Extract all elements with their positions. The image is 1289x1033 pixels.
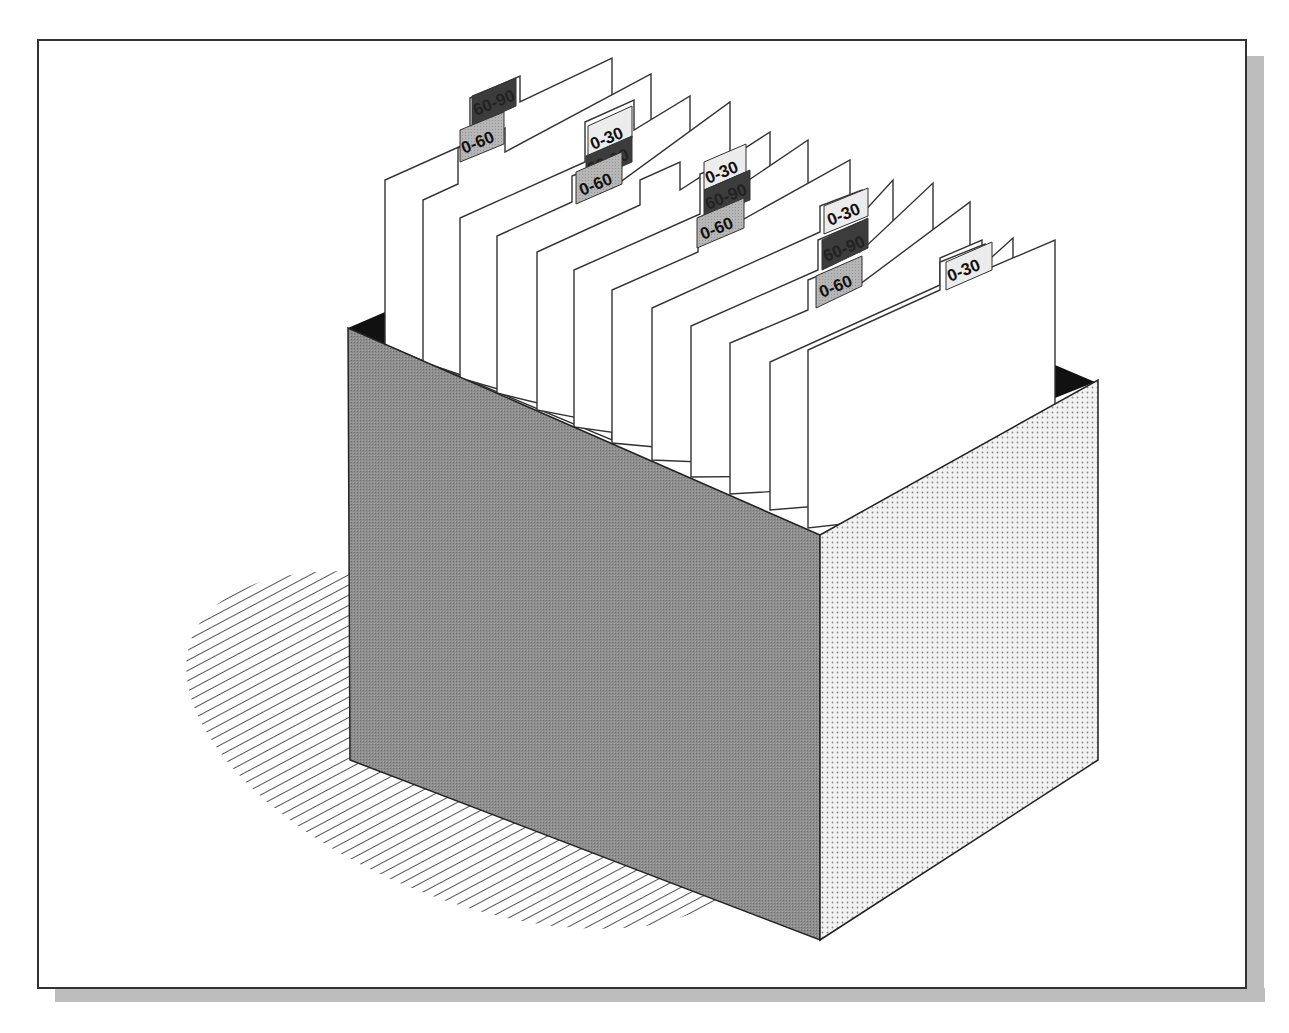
illustration-canvas: 60-90 0-60 0-30 60-90 0-60 0-30 60-90 0 (0, 0, 1289, 1033)
